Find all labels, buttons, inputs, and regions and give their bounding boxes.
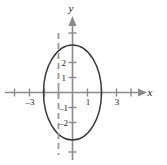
x-axis-label: x: [147, 86, 153, 98]
x-axis-arrow-icon: [138, 89, 147, 97]
y-axis-label: y: [68, 2, 74, 14]
coordinate-plane-svg: x y –3 1 3 2 1 –1 –2: [0, 0, 167, 165]
y-tick-label-1: 1: [62, 73, 67, 83]
y-axis-group: [69, 16, 77, 160]
x-tick-label-1: 1: [86, 97, 91, 107]
y-tick-label--1: –1: [58, 103, 68, 113]
x-tick-label--3: –3: [25, 97, 36, 107]
graph-figure: x y –3 1 3 2 1 –1 –2: [0, 0, 167, 165]
x-axis-group: [5, 89, 147, 97]
y-tick-label-2: 2: [62, 58, 67, 68]
y-axis-arrow-icon: [69, 16, 77, 26]
y-tick-label--2: –2: [58, 118, 68, 128]
x-tick-label-3: 3: [115, 97, 120, 107]
